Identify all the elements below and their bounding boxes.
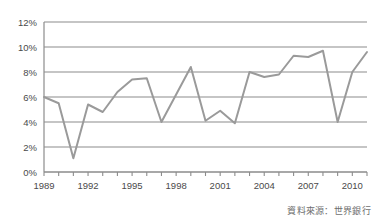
y-tick-label-6: 6%: [23, 92, 37, 103]
x-tick-labels-group: 19891992199519982001200420072010: [33, 180, 362, 191]
y-tick-label-12: 12%: [18, 17, 38, 28]
data-line-series-0: [44, 51, 367, 159]
gridlines-group: [44, 22, 367, 172]
x-tick-label-1998: 1998: [166, 180, 187, 191]
x-tick-label-1995: 1995: [122, 180, 143, 191]
x-minor-ticks-group: [44, 172, 367, 176]
y-tick-labels-group: 0%2%4%6%8%10%12%: [18, 17, 38, 178]
y-tick-label-8: 8%: [23, 67, 37, 78]
chart-figure: 0%2%4%6%8%10%12% 19891992199519982001200…: [0, 0, 379, 221]
y-tick-label-10: 10%: [18, 42, 38, 53]
x-tick-label-2010: 2010: [342, 180, 363, 191]
x-tick-label-2001: 2001: [210, 180, 231, 191]
x-tick-label-2007: 2007: [298, 180, 319, 191]
x-tick-label-2004: 2004: [254, 180, 275, 191]
x-tick-label-1989: 1989: [33, 180, 54, 191]
source-note: 資料來源：世界銀行: [287, 204, 371, 217]
y-tick-label-4: 4%: [23, 117, 37, 128]
line-chart-plot: 0%2%4%6%8%10%12% 19891992199519982001200…: [0, 0, 379, 221]
data-series-group: [44, 51, 367, 159]
y-tick-label-0: 0%: [23, 167, 37, 178]
y-tick-label-2: 2%: [23, 142, 37, 153]
x-tick-label-1992: 1992: [77, 180, 98, 191]
